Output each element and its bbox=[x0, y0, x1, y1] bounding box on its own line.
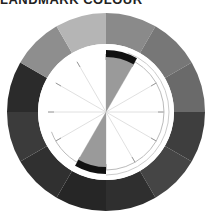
color-wheel bbox=[0, 0, 212, 224]
